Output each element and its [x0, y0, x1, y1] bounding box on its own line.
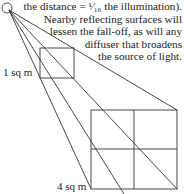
- large-square-label: 4 sq m: [57, 180, 86, 192]
- inverse-square-diagram: [0, 0, 184, 194]
- ray-bottom-right: [9, 10, 177, 189]
- ray-top-right: [9, 10, 177, 110]
- ray-top-left: [9, 10, 124, 194]
- ray-bottom-left: [9, 10, 91, 189]
- small-square-label: 1 sq m: [3, 66, 32, 78]
